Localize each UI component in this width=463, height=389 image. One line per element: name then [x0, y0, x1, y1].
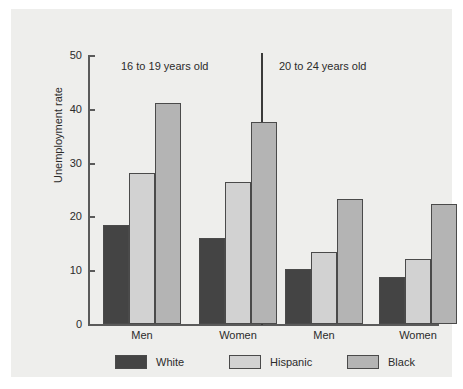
- y-tick-label-50: 50: [42, 50, 82, 61]
- bar-16-19-women-hispanic: [225, 182, 251, 324]
- bar-20-24-women-hispanic: [405, 259, 431, 324]
- plot-area: [89, 56, 439, 324]
- legend-item-black: Black: [347, 354, 415, 370]
- y-tick-label-10: 10: [42, 265, 82, 276]
- legend-label-white: White: [156, 356, 184, 368]
- x-axis-line: [88, 324, 439, 326]
- y-tick-label-0: 0: [42, 319, 82, 330]
- bar-20-24-men-black: [337, 199, 363, 324]
- legend-label-black: Black: [388, 356, 415, 368]
- bar-20-24-women-black: [431, 204, 457, 324]
- legend-swatch-white: [115, 355, 147, 369]
- x-group-label-16-19-women: Women: [203, 329, 273, 341]
- legend-item-white: White: [115, 354, 184, 370]
- bar-16-19-men-hispanic: [129, 173, 155, 324]
- x-group-label-20-24-men: Men: [289, 329, 359, 341]
- chart-figure: 16 to 19 years old 20 to 24 years old 50…: [11, 9, 452, 377]
- bar-16-19-women-black: [251, 122, 277, 324]
- bar-20-24-men-hispanic: [311, 252, 337, 324]
- bar-16-19-men-white: [103, 225, 129, 324]
- bar-20-24-men-white: [285, 269, 311, 324]
- y-axis-title: Unemployment rate: [52, 70, 64, 200]
- bar-16-19-women-white: [199, 238, 225, 324]
- y-tick-label-20: 20: [42, 211, 82, 222]
- legend-swatch-hispanic: [229, 355, 261, 369]
- bar-20-24-women-white: [379, 277, 405, 324]
- legend-item-hispanic: Hispanic: [229, 354, 312, 370]
- bar-16-19-men-black: [155, 103, 181, 324]
- x-group-label-16-19-men: Men: [107, 329, 177, 341]
- x-group-label-20-24-women: Women: [383, 329, 453, 341]
- legend-label-hispanic: Hispanic: [270, 356, 312, 368]
- legend-swatch-black: [347, 355, 379, 369]
- chart-legend: White Hispanic Black: [89, 354, 439, 372]
